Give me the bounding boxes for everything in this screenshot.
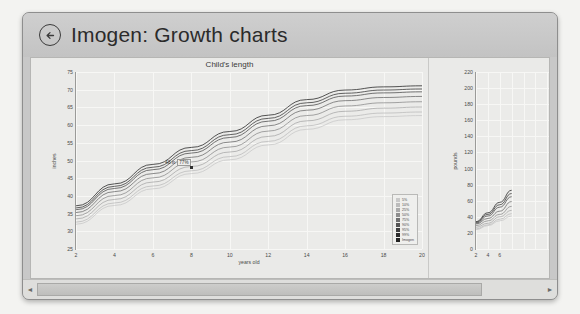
- x-axis-tick: 8: [190, 252, 193, 258]
- y-axis-tick: 65: [67, 104, 73, 110]
- chart-legend: 5%10%25%50%75%90%95%99%Imogen: [392, 194, 418, 245]
- page-title: Imogen: Growth charts: [71, 23, 288, 47]
- legend-swatch-icon: [396, 198, 400, 202]
- screen: Imogen: Growth charts Child's length inc…: [0, 0, 580, 314]
- growth-curves: [76, 72, 422, 249]
- x-axis-tick: 2: [475, 252, 478, 258]
- legend-label: 95%: [402, 228, 409, 232]
- y-axis-label-length: inches: [51, 153, 57, 168]
- x-axis-tick: 12: [265, 252, 271, 258]
- legend-swatch-icon: [396, 223, 400, 227]
- chart-panel-weight: pounds 020406080100120140160180200220246: [429, 58, 550, 278]
- y-axis-tick: 60: [467, 198, 473, 204]
- legend-swatch-icon: [396, 203, 400, 207]
- x-axis-tick: 14: [304, 252, 310, 258]
- x-axis-tick: 20: [419, 252, 425, 258]
- legend-swatch-icon: [396, 228, 400, 232]
- y-axis-tick: 30: [67, 228, 73, 234]
- y-axis-tick: 60: [67, 122, 73, 128]
- charts-content: Child's length inches years old 25303540…: [30, 57, 550, 279]
- legend-label: 90%: [402, 223, 409, 227]
- legend-label: 5%: [402, 198, 407, 202]
- x-axis-tick: 6: [498, 252, 501, 258]
- y-axis-tick: 70: [67, 87, 73, 93]
- annotation-value: 48 in: [165, 160, 175, 165]
- grid-line-horizontal: [76, 249, 422, 250]
- y-axis-tick: 75: [67, 69, 73, 75]
- percentile-curve: [76, 116, 422, 225]
- scrollbar-thumb[interactable]: [37, 283, 482, 296]
- legend-item[interactable]: Imogen: [396, 237, 414, 242]
- x-axis-tick: 4: [486, 252, 489, 258]
- grid-line-horizontal: [476, 249, 550, 250]
- plot-area-weight: pounds 020406080100120140160180200220246: [475, 72, 550, 250]
- legend-label: 25%: [402, 208, 409, 212]
- title-bar: Imogen: Growth charts: [23, 13, 557, 57]
- back-arrow-icon[interactable]: [39, 24, 61, 46]
- chart-panel-length: Child's length inches years old 25303540…: [31, 58, 429, 278]
- y-axis-tick: 40: [67, 193, 73, 199]
- charts-panes: Child's length inches years old 25303540…: [31, 58, 549, 278]
- data-point-marker[interactable]: [190, 166, 193, 169]
- y-axis-tick: 100: [464, 166, 473, 172]
- y-axis-tick: 20: [467, 230, 473, 236]
- legend-label: Imogen: [402, 238, 414, 242]
- x-axis-tick: 18: [381, 252, 387, 258]
- x-axis-tick: 10: [227, 252, 233, 258]
- y-axis-tick: 25: [67, 246, 73, 252]
- y-axis-tick: 140: [464, 133, 473, 139]
- y-axis-label-weight: pounds: [452, 152, 458, 169]
- growth-curves: [476, 72, 550, 249]
- grid-line-vertical: [422, 72, 423, 249]
- horizontal-scrollbar[interactable]: ◄ ►: [23, 279, 557, 299]
- legend-swatch-icon: [396, 213, 400, 217]
- y-axis-tick: 180: [464, 101, 473, 107]
- percentile-curve: [76, 92, 422, 210]
- legend-label: 75%: [402, 218, 409, 222]
- y-axis-tick: 160: [464, 117, 473, 123]
- y-axis-tick: 35: [67, 211, 73, 217]
- app-window: Imogen: Growth charts Child's length inc…: [22, 12, 558, 300]
- x-axis-label-length: years old: [76, 259, 422, 265]
- legend-swatch-icon: [396, 218, 400, 222]
- y-axis-tick: 0: [470, 246, 473, 252]
- percentile-curve: [76, 89, 422, 208]
- scrollbar-track[interactable]: [37, 280, 543, 299]
- scroll-left-arrow-icon[interactable]: ◄: [23, 280, 37, 299]
- x-axis-tick: 2: [75, 252, 78, 258]
- legend-label: 10%: [402, 203, 409, 207]
- percentile-curve: [76, 112, 422, 222]
- y-axis-tick: 40: [467, 214, 473, 220]
- y-axis-tick: 220: [464, 69, 473, 75]
- legend-swatch-icon: [396, 238, 400, 242]
- annotation-percentile: 77%: [177, 159, 190, 166]
- y-axis-tick: 120: [464, 149, 473, 155]
- x-axis-tick: 6: [151, 252, 154, 258]
- legend-label: 99%: [402, 233, 409, 237]
- data-point-annotation: 48 in77%: [165, 159, 190, 166]
- y-axis-tick: 45: [67, 175, 73, 181]
- legend-swatch-icon: [396, 233, 400, 237]
- plot-area-length: inches years old 25303540455055606570752…: [75, 72, 422, 250]
- y-axis-tick: 200: [464, 85, 473, 91]
- percentile-curve: [476, 214, 512, 229]
- y-axis-tick: 55: [67, 140, 73, 146]
- chart-title-length: Child's length: [31, 60, 428, 69]
- legend-swatch-icon: [396, 208, 400, 212]
- x-axis-tick: 4: [113, 252, 116, 258]
- y-axis-tick: 80: [467, 182, 473, 188]
- y-axis-tick: 50: [67, 158, 73, 164]
- x-axis-tick: 16: [342, 252, 348, 258]
- legend-label: 50%: [402, 213, 409, 217]
- scroll-right-arrow-icon[interactable]: ►: [543, 280, 557, 299]
